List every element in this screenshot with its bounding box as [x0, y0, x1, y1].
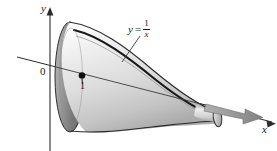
curve-equation-label: y = 1 x	[128, 19, 150, 39]
curve-equation-fraction: 1 x	[143, 19, 150, 39]
curve-equation-numerator: 1	[143, 19, 150, 28]
y-axis-label: y	[41, 3, 46, 14]
y-axis-arrowhead	[47, 7, 54, 16]
figure-gabriels-horn: y x 0 1 y = 1 x	[0, 0, 277, 151]
x-axis-label: x	[262, 124, 267, 135]
y-axis	[47, 7, 54, 151]
point-one-label: 1	[80, 81, 85, 91]
curve-equation-denominator: x	[144, 30, 150, 39]
point-marker-dot	[79, 72, 86, 79]
origin-label: 0	[40, 66, 46, 77]
curve-equation-lhs: y	[128, 24, 133, 35]
curve-equation-equals: =	[135, 24, 141, 35]
